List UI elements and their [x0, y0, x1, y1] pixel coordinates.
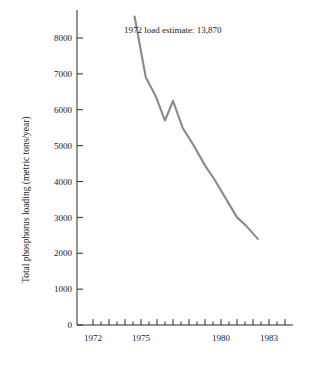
y-tick-label: 4000: [54, 177, 73, 187]
series-line-measured: [135, 16, 258, 238]
y-tick-label: 2000: [54, 248, 73, 258]
x-axis-tick-labels: 1972197519801983: [84, 333, 279, 343]
phosphorus-loading-chart: 010002000300040005000600070008000 197219…: [0, 0, 312, 369]
x-axis-ticks: [93, 319, 285, 325]
x-tick-label: 1983: [260, 333, 279, 343]
y-tick-label: 5000: [54, 141, 73, 151]
y-tick-label: 1000: [54, 284, 73, 294]
y-tick-label: 0: [68, 320, 73, 330]
x-tick-label: 1980: [212, 333, 231, 343]
x-tick-label: 1972: [84, 333, 102, 343]
chart-svg: 010002000300040005000600070008000 197219…: [0, 0, 312, 369]
x-tick-label: 1975: [132, 333, 151, 343]
y-tick-label: 3000: [54, 213, 73, 223]
y-tick-label: 7000: [54, 69, 73, 79]
y-axis-ticks: 010002000300040005000600070008000: [54, 33, 83, 330]
y-axis-title: Total phosphorus loading (metric tons/ye…: [21, 116, 32, 283]
y-tick-label: 8000: [54, 33, 73, 43]
y-tick-label: 6000: [54, 105, 73, 115]
load-estimate-annotation: 1972 load estimate: 13,870: [124, 25, 222, 35]
